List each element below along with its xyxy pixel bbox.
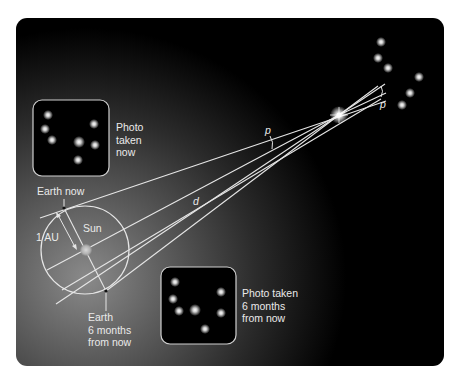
label-line: taken: [116, 134, 143, 147]
sun-icon: [80, 244, 92, 256]
photo-now: [33, 100, 109, 176]
earth-now-marker: [62, 206, 65, 209]
au-arrow: [58, 215, 75, 247]
label-line: 6 months: [88, 324, 131, 337]
arrowhead-icon: [72, 244, 77, 250]
label-line: from now: [88, 336, 131, 349]
earth-later-label: Earth 6 months from now: [88, 311, 131, 349]
label-line: Photo: [116, 121, 143, 134]
parallax-arc: [270, 136, 273, 149]
label-line: now: [116, 146, 143, 159]
parallax-angle-label: p: [265, 124, 271, 137]
nearby-star-icon: [330, 106, 348, 124]
parallax-angle-far-label: p: [380, 98, 386, 111]
earth-later-marker: [104, 289, 107, 292]
label-line: 6 months: [242, 300, 298, 313]
label-line: Photo taken: [242, 287, 298, 300]
distance-label: d: [193, 195, 199, 208]
au-label: 1 AU: [36, 231, 59, 244]
label-line: from now: [242, 312, 298, 325]
label-line: Earth: [88, 311, 131, 324]
photo-now-label: Photo taken now: [116, 121, 143, 159]
photo-later: [161, 267, 236, 344]
photo-later-label: Photo taken 6 months from now: [242, 287, 298, 325]
sun-label: Sun: [83, 222, 102, 235]
earth-now-label: Earth now: [37, 185, 84, 198]
